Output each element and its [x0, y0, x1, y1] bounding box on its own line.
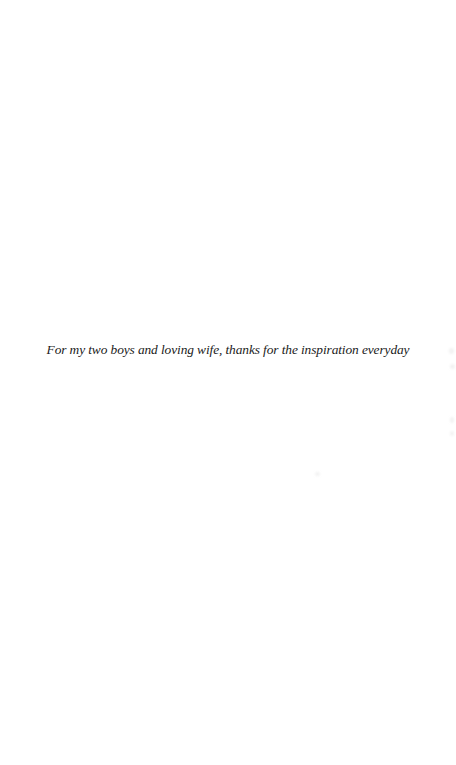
scan-artifact — [450, 431, 454, 436]
scan-artifact — [450, 417, 454, 423]
dedication-text: For my two boys and loving wife, thanks … — [0, 342, 456, 358]
book-page: For my two boys and loving wife, thanks … — [0, 0, 456, 765]
scan-artifact — [315, 472, 320, 476]
scan-artifact — [450, 364, 455, 369]
scan-artifact — [449, 348, 454, 354]
